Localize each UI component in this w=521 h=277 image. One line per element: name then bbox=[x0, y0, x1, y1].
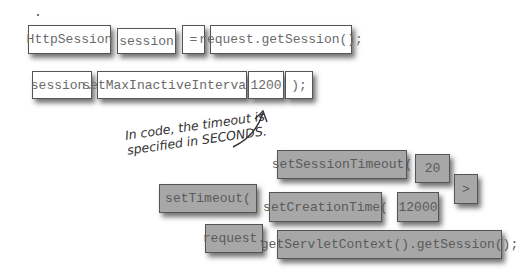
annotation-arrow-icon bbox=[225, 105, 285, 155]
tile-1200[interactable]: 1200 bbox=[248, 71, 284, 99]
tile-request-getsession[interactable]: request.getSession(); bbox=[210, 25, 352, 54]
tile-greater-than[interactable]: > bbox=[454, 174, 478, 204]
tile-12000[interactable]: 12000 bbox=[397, 192, 439, 222]
tile-session[interactable]: session bbox=[117, 28, 176, 54]
tile-request-dot[interactable]: request. bbox=[205, 224, 263, 253]
stray-dot bbox=[37, 14, 39, 16]
tile-setsessiontimeout[interactable]: setSessionTimeout( bbox=[277, 150, 407, 179]
tile-close-paren-semicolon[interactable]: ); bbox=[285, 71, 313, 99]
tile-httpsession[interactable]: HttpSession bbox=[28, 25, 111, 54]
tile-setmaxinactiveinterval[interactable]: setMaxInactiveInterval( bbox=[97, 71, 247, 99]
tile-setcreationtime[interactable]: setCreationTime( bbox=[269, 192, 382, 222]
tile-20[interactable]: 20 bbox=[415, 154, 450, 183]
tile-getservletcontext-getsession[interactable]: getServletContext().getSession(); bbox=[277, 230, 502, 259]
tile-settimeout[interactable]: setTimeout( bbox=[159, 184, 257, 213]
